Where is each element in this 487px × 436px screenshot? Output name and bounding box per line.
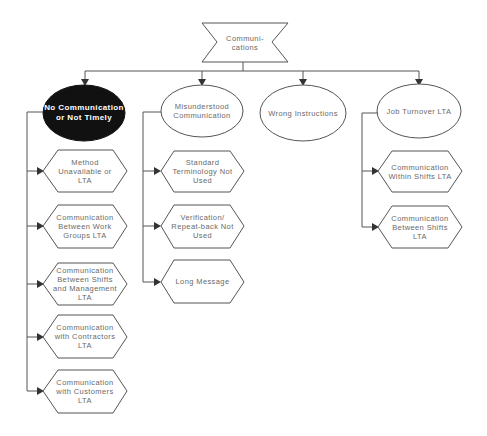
arrow-icon	[154, 167, 161, 175]
cause-label-with-customers: Communication with Customers LTA	[48, 370, 122, 413]
category-label-no-communication: No Communication or Not Timely	[43, 90, 125, 136]
category-label-misunderstood: Misunderstood Communication	[161, 90, 243, 132]
root-node-label: Communi- cations	[217, 23, 273, 62]
cause-label-long-message: Long Message	[165, 260, 240, 303]
cause-label-between-work-groups: Communication Between Work Groups LTA	[50, 205, 120, 248]
cause-tree-diagram: Communi- cations No Communication or Not…	[0, 0, 487, 436]
cause-label-with-contractors: Communication with Contractors LTA	[48, 315, 122, 358]
cause-label-verification-repeat-back: Verification/ Repeat-back Not Used	[165, 205, 240, 248]
cause-label-standard-terminology: Standard Terminology Not Used	[165, 151, 240, 192]
branch-1-spine	[27, 112, 43, 391]
category-label-wrong-instructions: Wrong Instructions	[260, 90, 346, 136]
arrow-icon	[154, 278, 161, 286]
arrow-icon	[154, 222, 161, 230]
cause-label-between-shifts-management: Communication Between Shifts and Managem…	[46, 263, 124, 305]
branch-2-spine	[143, 112, 161, 282]
cause-label-within-shifts: Communication Within Shifts LTA	[382, 151, 458, 192]
cause-label-method-unavailable: Method Unavailable or LTA	[50, 150, 120, 192]
category-label-job-turnover: Job Turnover LTA	[377, 88, 461, 134]
cause-label-between-shifts: Communication Between Shifts LTA	[382, 206, 458, 248]
